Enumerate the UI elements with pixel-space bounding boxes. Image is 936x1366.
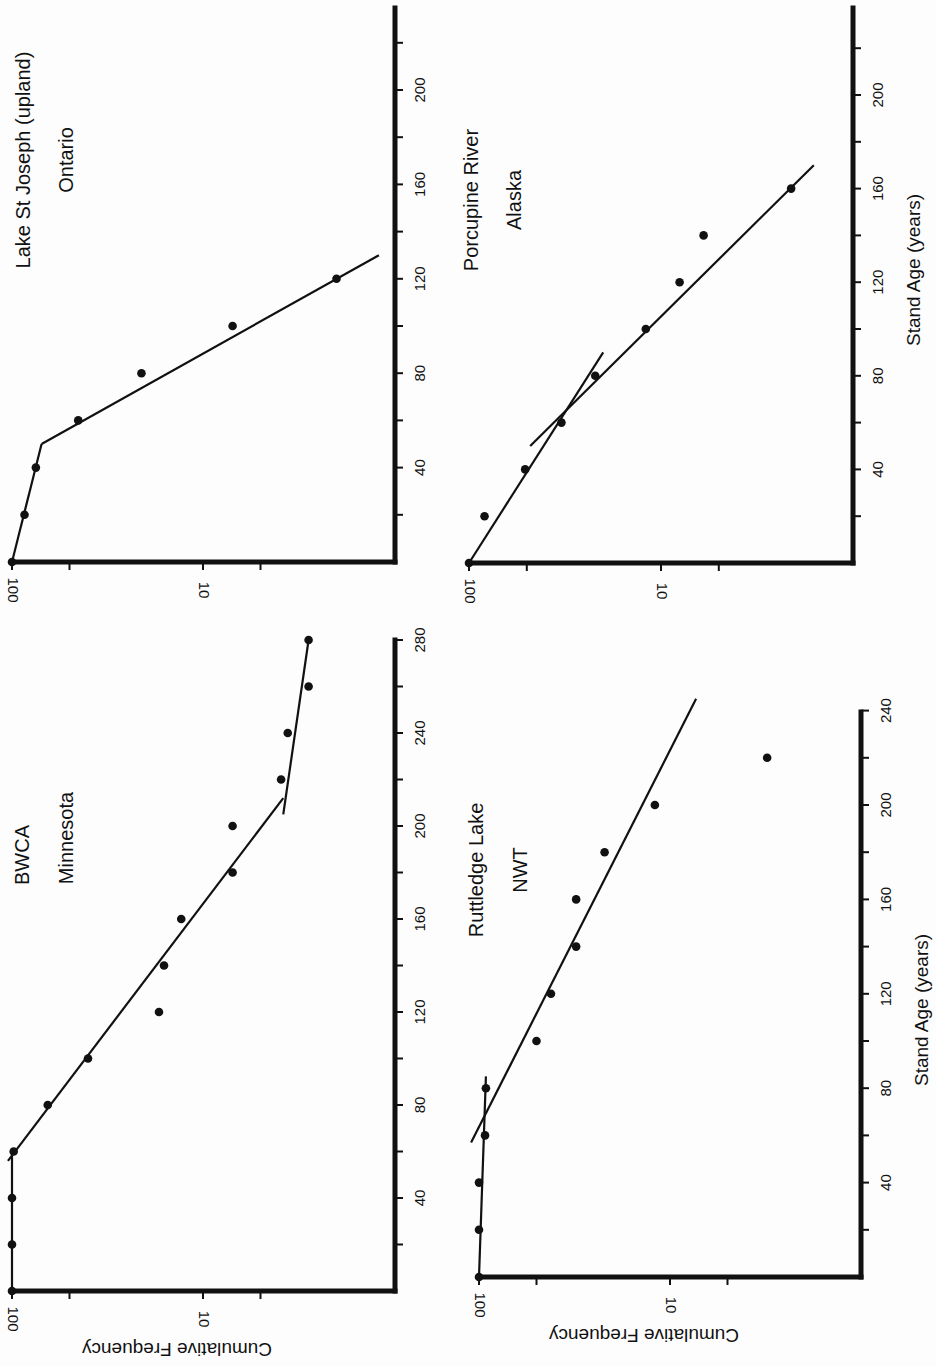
data-point (8, 1240, 17, 1249)
panel-title: BWCA (11, 824, 33, 885)
data-point (304, 682, 313, 691)
panel-lake-st-joseph: 100104080120160200Lake St Joseph (upland… (5, 8, 428, 603)
age-tick-label: 200 (877, 792, 894, 817)
age-tick-label: 240 (877, 698, 894, 723)
data-point (228, 322, 237, 331)
frequency-tick-label: 10 (663, 1297, 680, 1314)
age-tick-label: 40 (411, 459, 428, 476)
fit-line (530, 165, 814, 446)
data-point (475, 1178, 484, 1187)
panel-title: Porcupine River (460, 129, 482, 272)
age-tick-label: 200 (411, 77, 428, 102)
data-point (8, 1287, 17, 1296)
age-tick-label: 120 (411, 266, 428, 291)
data-point (475, 1226, 484, 1235)
data-point (20, 511, 29, 520)
fit-line (42, 255, 379, 444)
fit-line (283, 640, 308, 814)
data-point (84, 1054, 93, 1063)
age-tick-label: 160 (411, 172, 428, 197)
panel-subtitle: Ontario (55, 127, 77, 193)
data-point (177, 915, 186, 924)
data-point (74, 416, 83, 425)
fit-line (471, 699, 696, 1143)
frequency-tick-label: 10 (196, 582, 213, 599)
age-tick-label: 80 (411, 1097, 428, 1114)
data-point (465, 559, 474, 568)
data-point (277, 775, 286, 784)
data-point (482, 1084, 491, 1093)
data-point (532, 1037, 541, 1046)
data-point (9, 1147, 18, 1156)
data-point (137, 369, 146, 378)
age-tick-label: 80 (411, 365, 428, 382)
data-point (557, 418, 566, 427)
frequency-tick-label: 10 (196, 1311, 213, 1328)
age-tick-label: 80 (877, 1080, 894, 1097)
fit-line (12, 444, 42, 562)
data-point (283, 729, 292, 738)
data-point (547, 990, 556, 999)
data-point (8, 558, 17, 567)
panel-bwca: 100104080120160200240280BWCAMinnesotaCum… (5, 627, 428, 1360)
age-tick-label: 200 (411, 813, 428, 838)
age-tick-label: 160 (869, 176, 886, 201)
age-tick-label: 120 (869, 270, 886, 295)
x-axis-title: Stand Age (years) (903, 194, 924, 346)
panel-subtitle: Minnesota (55, 791, 77, 884)
y-axis-title: Cumulative Frequency (548, 1325, 739, 1346)
age-tick-label: 160 (411, 906, 428, 931)
data-point (228, 822, 237, 831)
age-tick-label: 240 (411, 720, 428, 745)
frequency-tick-label: 10 (654, 583, 671, 600)
data-point (155, 1008, 164, 1017)
data-point (572, 895, 581, 904)
frequency-tick-label: 100 (472, 1292, 489, 1317)
figure-svg: 100104080120160200Lake St Joseph (upland… (0, 0, 936, 1366)
data-point (572, 942, 581, 951)
data-point (600, 848, 609, 857)
x-axis-title: Stand Age (years) (911, 934, 932, 1086)
panel-title: Lake St Joseph (upland) (12, 52, 34, 269)
age-tick-label: 40 (411, 1190, 428, 1207)
age-tick-label: 280 (411, 627, 428, 652)
data-point (521, 465, 530, 474)
figure-canvas: 100104080120160200Lake St Joseph (upland… (0, 0, 936, 1366)
data-point (43, 1101, 52, 1110)
data-point (332, 275, 341, 284)
panel-porcupine-river: 100104080120160200Porcupine RiverAlaskaS… (460, 8, 924, 604)
age-tick-label: 160 (877, 887, 894, 912)
age-tick-label: 200 (869, 82, 886, 107)
frequency-tick-label: 100 (462, 578, 479, 603)
age-tick-label: 40 (877, 1174, 894, 1191)
data-point (475, 1273, 484, 1282)
data-point (32, 463, 41, 472)
data-point (591, 372, 600, 381)
panel-ruttledge-lake: 100104080120160200240Ruttledge LakeNWTSt… (465, 698, 932, 1346)
data-point (763, 754, 772, 763)
panel-title: Ruttledge Lake (465, 803, 487, 938)
fit-line (469, 352, 603, 563)
fit-line (479, 1076, 486, 1277)
data-point (481, 1131, 490, 1140)
frequency-tick-label: 100 (5, 577, 22, 602)
data-point (160, 961, 169, 970)
data-point (641, 325, 650, 334)
age-tick-label: 40 (869, 461, 886, 478)
data-point (304, 636, 313, 645)
data-point (228, 868, 237, 877)
frequency-tick-label: 100 (5, 1306, 22, 1331)
panel-subtitle: Alaska (503, 169, 525, 230)
y-axis-title: Cumulative Frequency (81, 1339, 272, 1360)
panel-subtitle: NWT (509, 847, 531, 893)
data-point (480, 512, 489, 521)
age-tick-label: 80 (869, 367, 886, 384)
data-point (8, 1194, 17, 1203)
data-point (787, 184, 796, 193)
data-point (651, 801, 660, 810)
age-tick-label: 120 (877, 981, 894, 1006)
data-point (699, 231, 708, 240)
age-tick-label: 120 (411, 999, 428, 1024)
data-point (675, 278, 684, 287)
